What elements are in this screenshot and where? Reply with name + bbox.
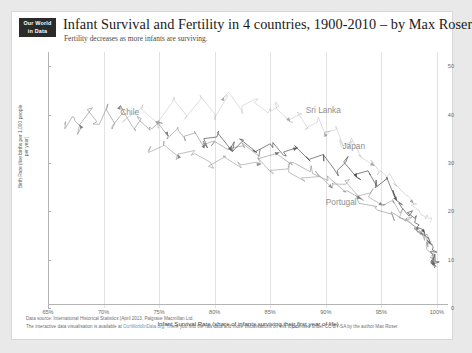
interactive-note-post: . There you find the raw data and more v… xyxy=(164,324,299,329)
page-title: Infant Survival and Fertility in 4 count… xyxy=(63,16,472,33)
our-world-in-data-logo: Our World in Data xyxy=(19,18,56,37)
y-axis-label: Birth Rate (live births per 1,000 people… xyxy=(18,103,31,189)
license-text: Licensed under CC-BY-SA by the author Ma… xyxy=(292,324,398,329)
series-line xyxy=(148,141,435,263)
plot-area: 01020304050 65%70%75%80%85%90%95%100% Ch… xyxy=(12,48,454,310)
series-label-sri-lanka: Sri Lanka xyxy=(306,105,341,115)
chart-footer: Data source: International Historical St… xyxy=(12,312,452,340)
interactive-note-pre: The interactive data visualisation is av… xyxy=(26,324,123,329)
series-label-portugal: Portugal xyxy=(326,197,357,207)
series-line xyxy=(123,92,432,222)
page-subtitle: Fertility decreases as more infants are … xyxy=(64,34,207,43)
chart-card: Our World in Data Infant Survival and Fe… xyxy=(11,11,453,340)
series-label-chile: Chile xyxy=(120,107,139,117)
ourworldindata-link[interactable]: OurWorldInData.org xyxy=(123,324,164,329)
series-line xyxy=(204,131,440,268)
series-lines xyxy=(12,48,454,310)
interactive-note: The interactive data visualisation is av… xyxy=(26,324,299,329)
data-source-text: Data source: International Historical St… xyxy=(26,316,194,321)
chart-header: Our World in Data Infant Survival and Fe… xyxy=(12,12,452,48)
logo-line-2: in Data xyxy=(19,27,56,35)
logo-line-1: Our World xyxy=(19,19,56,27)
series-label-japan: Japan xyxy=(342,141,365,151)
series-arrow-marker xyxy=(275,151,280,156)
